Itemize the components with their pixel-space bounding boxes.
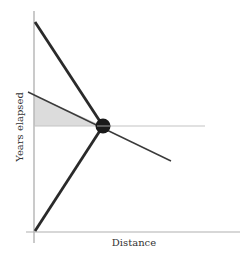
diagram-canvas: Distance Years elapsed [0, 0, 248, 258]
x-axis-label: Distance [112, 237, 156, 248]
y-axis-label: Years elapsed [14, 92, 25, 163]
lower-ascending-line [35, 126, 103, 231]
